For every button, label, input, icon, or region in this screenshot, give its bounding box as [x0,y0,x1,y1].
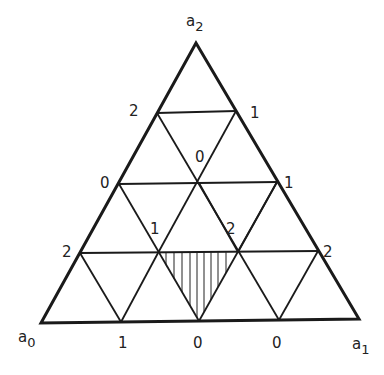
node-label: 2 [323,245,333,260]
vertex-a2-sub: 2 [195,19,203,34]
node-label: 0 [193,336,203,351]
vertex-a1-label: a1 [352,337,369,352]
node-label: 2 [226,222,236,237]
node-label: 0 [100,176,110,191]
hatched-triangle [166,250,226,322]
node-label: 2 [129,104,139,119]
node-label: 0 [272,336,282,351]
vertex-a1-base: a [352,335,361,353]
vertex-a0-sub: 0 [27,335,35,350]
vertex-a2-label: a2 [186,14,203,29]
vertex-a2-base: a [186,12,195,30]
node-label: 2 [62,245,72,260]
node-label: 1 [284,176,294,191]
node-label: 1 [150,222,160,237]
grid-lines [80,111,318,322]
triangle-diagram [0,0,384,375]
vertex-a0-base: a [18,328,27,346]
node-label: 1 [250,106,260,121]
vertex-a0-label: a0 [18,330,35,345]
node-label: 1 [118,336,128,351]
vertex-a1-sub: 1 [361,342,369,357]
node-label: 0 [195,150,205,165]
